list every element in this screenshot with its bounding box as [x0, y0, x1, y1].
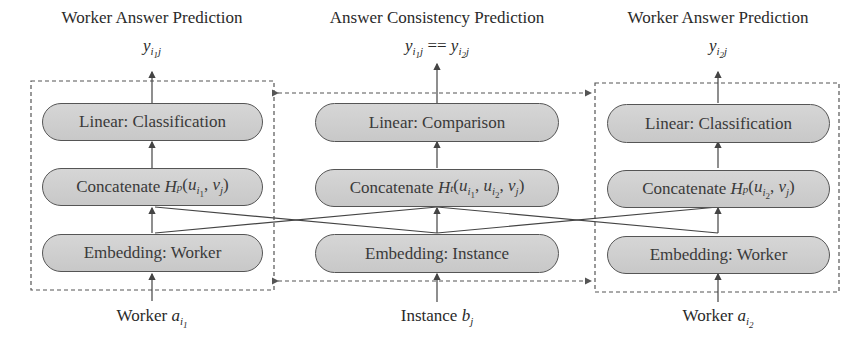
left-embedding-worker-node: Embedding: Worker: [42, 234, 263, 272]
middle-output-label: yi1j == yi2j: [405, 36, 469, 61]
middle-linear-comparison-node: Linear: Comparison: [315, 103, 559, 142]
middle-column-title: Answer Consistency Prediction: [330, 8, 544, 28]
middle-input-label: Instance bj: [401, 306, 473, 327]
right-column-title: Worker Answer Prediction: [628, 8, 809, 28]
left-concatenate-node: Concatenate Hp(ui1, vj): [42, 168, 263, 206]
middle-embedding-instance-node: Embedding: Instance: [315, 234, 559, 273]
right-concatenate-node: Concatenate Hp(ui2, vj): [607, 170, 830, 208]
middle-concatenate-node: Concatenate Ht(ui1, ui2, vj): [315, 169, 559, 207]
right-input-label: Worker ai2: [683, 306, 754, 331]
left-input-label: Worker ai1: [117, 306, 188, 331]
right-linear-classification-node: Linear: Classification: [607, 104, 830, 143]
right-embedding-worker-node: Embedding: Worker: [607, 236, 830, 274]
left-linear-classification-node: Linear: Classification: [42, 103, 263, 141]
left-column-title: Worker Answer Prediction: [62, 8, 243, 28]
right-output-label: yi2j: [709, 36, 727, 61]
left-output-label: yi1j: [143, 36, 161, 61]
